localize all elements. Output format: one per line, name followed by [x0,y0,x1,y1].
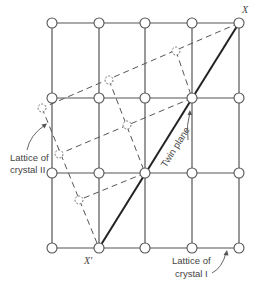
crystal-2-nodes [38,47,180,204]
label-twin-plane: Twin plane [158,125,191,169]
twin-plane-line [99,23,239,248]
crystal-2-arrow-icon [27,125,45,150]
label-x-bottom: X' [83,255,93,266]
label-x-top: X [241,4,249,15]
crystal-2-lattice [42,23,239,248]
twin-plane-arrow-icon [187,112,190,140]
crystal-1-arrow-icon [212,253,226,273]
label-crystal-2-line1: Lattice of [10,152,49,163]
twin-lattice-diagram: X X' Twin plane Lattice of crystal II La… [0,0,254,283]
label-crystal-2-line2: crystal II [10,164,45,175]
label-crystal-1-line1: Lattice of [172,255,211,266]
crystal-1-lattice [52,23,239,248]
label-crystal-1-line2: crystal I [175,268,208,279]
